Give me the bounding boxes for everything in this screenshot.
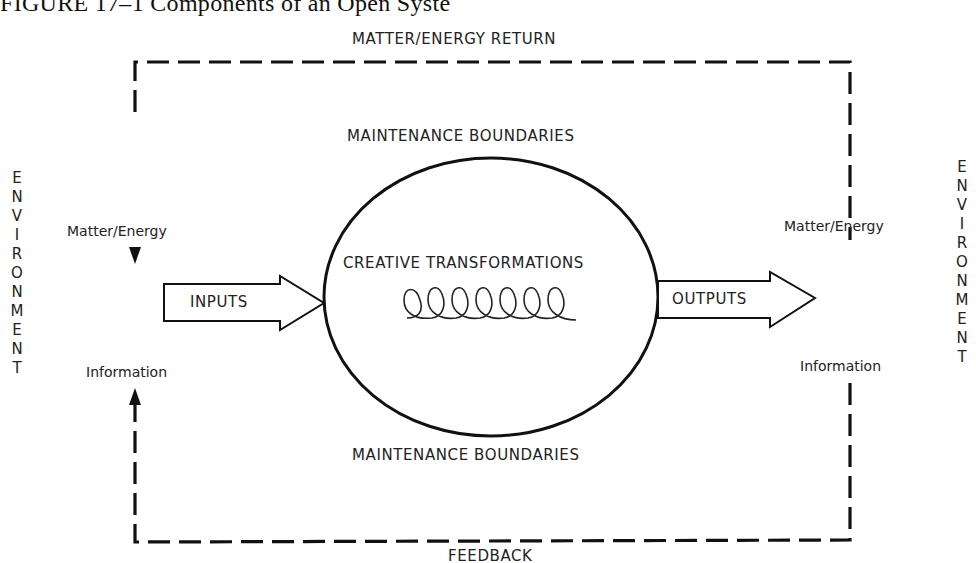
creative-transformations-label: CREATIVE TRANSFORMATIONS <box>343 254 584 272</box>
env-letter: N <box>952 329 972 348</box>
feedback-label: FEEDBACK <box>448 547 533 563</box>
env-letter: E <box>7 169 27 188</box>
env-letter: N <box>952 272 972 291</box>
left-information-label: Information <box>86 364 167 380</box>
env-letter: E <box>7 321 27 340</box>
env-letter: I <box>7 226 27 245</box>
env-letter: T <box>952 348 972 367</box>
env-letter: N <box>7 340 27 359</box>
left-environment-label: E N V I R O N M E N T <box>7 169 27 378</box>
env-letter: V <box>7 207 27 226</box>
env-letter: V <box>952 196 972 215</box>
matter-energy-return-line <box>135 62 850 240</box>
env-letter: M <box>952 291 972 310</box>
env-letter: M <box>7 302 27 321</box>
env-letter: T <box>7 359 27 378</box>
right-matter-energy-label: Matter/Energy <box>784 218 884 234</box>
up-arrow-icon <box>129 388 141 405</box>
inputs-label: INPUTS <box>190 293 248 311</box>
env-letter: R <box>7 245 27 264</box>
env-letter: N <box>7 283 27 302</box>
right-environment-label: E N V I R O N M E N T <box>952 158 972 367</box>
env-letter: N <box>7 188 27 207</box>
env-letter: I <box>952 215 972 234</box>
open-system-diagram <box>0 0 976 563</box>
maintenance-boundaries-bottom-label: MAINTENANCE BOUNDARIES <box>352 446 580 464</box>
outputs-label: OUTPUTS <box>672 290 747 308</box>
right-information-label: Information <box>800 358 881 374</box>
env-letter: R <box>952 234 972 253</box>
left-matter-energy-label: Matter/Energy <box>67 223 167 239</box>
env-letter: E <box>952 310 972 329</box>
env-letter: O <box>7 264 27 283</box>
env-letter: E <box>952 158 972 177</box>
transformation-loops-icon <box>404 288 576 320</box>
matter-energy-return-label: MATTER/ENERGY RETURN <box>352 30 556 48</box>
env-letter: O <box>952 253 972 272</box>
maintenance-boundaries-top-label: MAINTENANCE BOUNDARIES <box>347 127 575 145</box>
env-letter: N <box>952 177 972 196</box>
down-arrow-icon <box>129 247 141 264</box>
